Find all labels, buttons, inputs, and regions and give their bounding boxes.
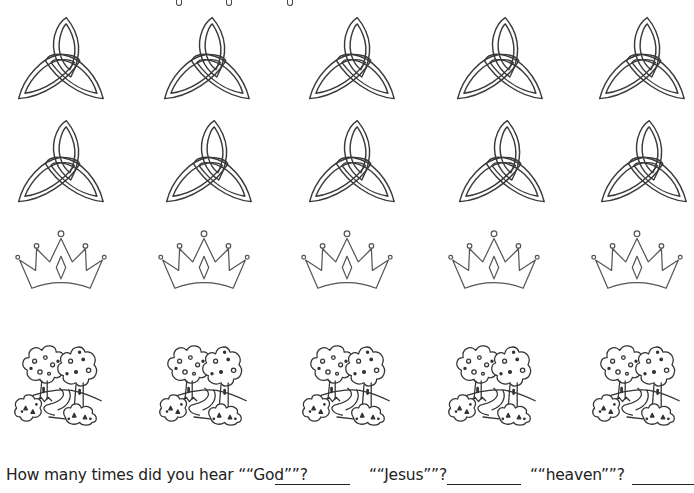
trees-icon xyxy=(590,336,682,426)
question-heaven-label: ““heaven””? xyxy=(530,466,625,484)
trees-icon xyxy=(446,336,538,426)
trinity-knot-icon xyxy=(596,14,686,104)
count-question-line: How many times did you hear ““God””? ““J… xyxy=(6,466,692,490)
crown-icon xyxy=(590,228,684,294)
trinity-knot-icon xyxy=(163,117,253,207)
trinity-knot-icon xyxy=(306,14,396,104)
trinity-knot-icon xyxy=(161,14,251,104)
answer-heaven-blank[interactable] xyxy=(632,484,694,485)
answer-god-blank[interactable] xyxy=(275,484,350,485)
answer-jesus-blank[interactable] xyxy=(447,484,521,485)
trinity-knot-icon xyxy=(15,14,105,104)
crown-icon xyxy=(447,228,541,294)
question-god-label: How many times did you hear ““God””? xyxy=(6,466,308,484)
trinity-knot-icon xyxy=(456,117,546,207)
trees-icon xyxy=(12,336,104,426)
question-jesus-label: ““Jesus””? xyxy=(369,466,447,484)
crown-icon xyxy=(14,228,108,294)
picture-grid xyxy=(0,0,692,440)
trinity-knot-icon xyxy=(15,117,105,207)
trees-icon xyxy=(300,336,392,426)
trinity-knot-icon xyxy=(454,14,544,104)
crown-icon xyxy=(300,228,394,294)
trinity-knot-icon xyxy=(306,117,396,207)
crown-icon xyxy=(157,228,251,294)
trees-icon xyxy=(157,336,249,426)
trinity-knot-icon xyxy=(598,117,688,207)
